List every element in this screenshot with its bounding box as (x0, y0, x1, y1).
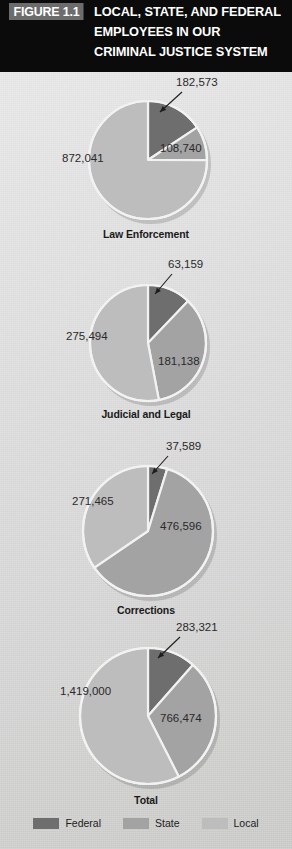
legend: FederalStateLocal (0, 812, 292, 834)
local-swatch (202, 818, 228, 829)
figure-title-line-2: EMPLOYEES IN OUR (94, 22, 278, 42)
figure-header: FIGURE 1.1 LOCAL, STATE, AND FEDERAL EMP… (0, 0, 292, 72)
legend-label: Local (234, 817, 259, 829)
figure-panel: FIGURE 1.1 LOCAL, STATE, AND FEDERAL EMP… (0, 0, 292, 849)
legend-label: State (155, 817, 180, 829)
federal-swatch (33, 818, 59, 829)
state-swatch (123, 818, 149, 829)
legend-label: Federal (65, 817, 101, 829)
pie-value-label-local: 1,419,000 (60, 685, 111, 697)
figure-number-badge: FIGURE 1.1 (9, 3, 83, 20)
legend-item: Local (202, 817, 259, 829)
pie-chart-title: Total (0, 794, 292, 806)
figure-title-line-1: LOCAL, STATE, AND FEDERAL (94, 2, 278, 22)
figure-title-line-3: CRIMINAL JUSTICE SYSTEM (94, 42, 278, 62)
pie-value-label-state: 766,474 (160, 712, 202, 724)
figure-title: LOCAL, STATE, AND FEDERAL EMPLOYEES IN O… (94, 2, 290, 62)
legend-item: State (123, 817, 180, 829)
pie-value-label-federal: 283,321 (176, 621, 218, 633)
legend-item: Federal (33, 817, 101, 829)
pie-svg (0, 0, 292, 849)
